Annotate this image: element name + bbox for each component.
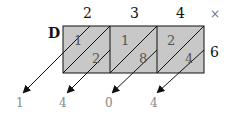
cell-1-tens: 1 bbox=[74, 34, 82, 47]
multiplicand-digit-2: 3 bbox=[130, 6, 139, 20]
times-operator: × bbox=[210, 8, 220, 20]
cell-3-ones: 4 bbox=[185, 52, 193, 65]
result-digit-3: 0 bbox=[105, 97, 113, 109]
lattice-grid bbox=[0, 0, 231, 116]
corner-label: D bbox=[48, 26, 60, 40]
multiplier-digit: 6 bbox=[210, 45, 219, 59]
cell-1-ones: 2 bbox=[92, 52, 100, 65]
cell-3-tens: 2 bbox=[167, 34, 175, 47]
cell-2-ones: 8 bbox=[139, 52, 147, 65]
multiplicand-digit-3: 4 bbox=[176, 6, 185, 20]
result-digit-1: 1 bbox=[16, 97, 24, 109]
result-digit-4: 4 bbox=[150, 97, 158, 109]
cell-2-tens: 1 bbox=[121, 34, 129, 47]
multiplicand-digit-1: 2 bbox=[83, 6, 92, 20]
result-digit-2: 4 bbox=[59, 97, 67, 109]
